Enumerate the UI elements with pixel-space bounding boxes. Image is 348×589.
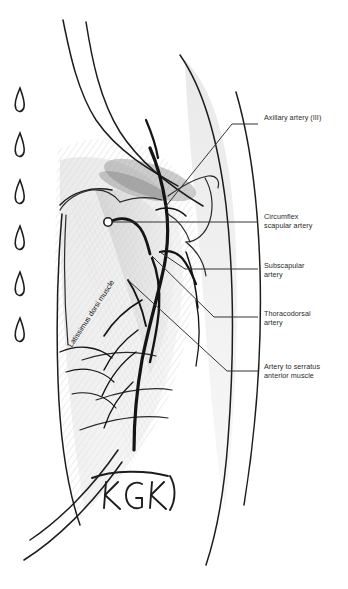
label-thoracodorsal-artery: Thoracodorsal artery	[264, 309, 311, 328]
margin-rib-marks	[15, 88, 24, 341]
body-shading	[55, 60, 237, 520]
label-subscapular-artery: Subscapular artery	[264, 261, 305, 280]
label-artery-to-serratus-anterior-muscle: Artery to serratus anterior muscle	[264, 362, 320, 381]
anatomical-illustration	[0, 0, 348, 589]
label-circumflex-scapular-artery: Circumflex scapular artery	[264, 212, 312, 231]
circumflex-origin-marker	[104, 218, 112, 226]
label-axillary-artery: Axillary artery (III)	[264, 113, 321, 122]
